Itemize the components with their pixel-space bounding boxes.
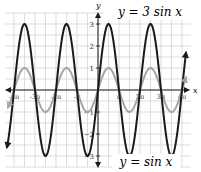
series-label-3sinx: y = 3 sin x — [117, 5, 182, 19]
y-axis-label: y — [95, 1, 101, 10]
y-tick-label: 1 — [90, 65, 94, 73]
arrow-right-3sinx-icon — [182, 51, 189, 58]
y-tick-label: 2 — [90, 43, 94, 51]
x-axis-label: x — [193, 86, 198, 95]
y-tick-label: 3 — [90, 21, 94, 29]
series-label-sinx: y = sin x — [119, 155, 173, 169]
sine-graph: -4π-3π-2π-ππ2π3π4π−3−2−1123 y = 3 sin x … — [0, 0, 201, 172]
